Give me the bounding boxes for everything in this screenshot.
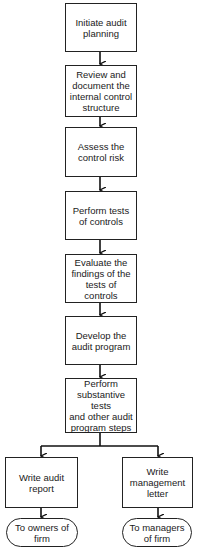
- step-review-internal-control: Review and document the internal control…: [65, 65, 137, 117]
- step-write-management-letter: Write management letter: [122, 457, 193, 508]
- step-label: Perform substantive tests and other audi…: [68, 378, 134, 433]
- step-assess-control-risk: Assess the control risk: [65, 127, 137, 177]
- terminal-label: To owners of firm: [15, 522, 69, 544]
- step-label: Initiate audit planning: [75, 17, 126, 39]
- step-label: Write audit report: [19, 472, 64, 494]
- step-evaluate-findings: Evaluate the findings of the tests of co…: [65, 254, 137, 303]
- terminal-label: To managers of firm: [130, 522, 185, 544]
- step-initiate-audit-planning: Initiate audit planning: [65, 3, 137, 52]
- step-label: Perform tests of controls: [73, 205, 130, 227]
- step-label: Write management letter: [130, 466, 185, 499]
- terminal-to-managers: To managers of firm: [122, 518, 192, 547]
- step-develop-audit-program: Develop the audit program: [65, 316, 137, 365]
- step-perform-substantive-tests: Perform substantive tests and other audi…: [65, 378, 137, 433]
- step-label: Evaluate the findings of the tests of co…: [68, 257, 134, 301]
- step-perform-tests-of-controls: Perform tests of controls: [65, 191, 137, 240]
- terminal-to-owners: To owners of firm: [6, 518, 78, 547]
- step-label: Assess the control risk: [78, 141, 124, 163]
- step-label: Review and document the internal control…: [70, 69, 132, 113]
- step-label: Develop the audit program: [72, 330, 131, 352]
- step-write-audit-report: Write audit report: [5, 457, 78, 508]
